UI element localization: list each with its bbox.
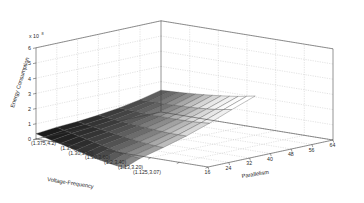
z-axis-exponent: x 10 8 [29, 32, 44, 39]
y-tick-5: 56 [309, 147, 315, 153]
y-tick-2: 32 [246, 160, 252, 166]
z-tick-2: 2 [28, 106, 31, 112]
y-tick-6: 64 [330, 142, 336, 148]
figure-canvas: 0 1 2 3 4 5 6 x 10 8 Energy Consumption … [0, 0, 364, 203]
z-tick-6: 6 [28, 45, 31, 51]
x-tick-0: (1.375,4.2) [31, 140, 56, 146]
z-tick-1: 1 [28, 121, 31, 127]
y-tick-3: 40 [267, 156, 273, 162]
x-axis-title: Voltage-Frequency [47, 176, 95, 189]
z-exponent-mantissa: x 10 [29, 33, 39, 39]
z-tick-4: 4 [28, 76, 31, 82]
y-axis-title: Parallelism [241, 169, 269, 179]
z-exponent-power: 8 [42, 32, 44, 36]
y-tick-4: 48 [288, 151, 294, 157]
z-axis-title: Energy Consumption [9, 57, 30, 109]
surface-plot-3d: 0 1 2 3 4 5 6 x 10 8 Energy Consumption … [0, 0, 364, 203]
y-axis-ticks: 16 24 32 40 48 56 64 [205, 140, 336, 175]
y-tick-0: 16 [205, 169, 211, 175]
z-tick-3: 3 [28, 91, 31, 97]
x-tick-6: (1.125,3.07) [133, 169, 161, 175]
y-tick-1: 24 [226, 165, 232, 171]
